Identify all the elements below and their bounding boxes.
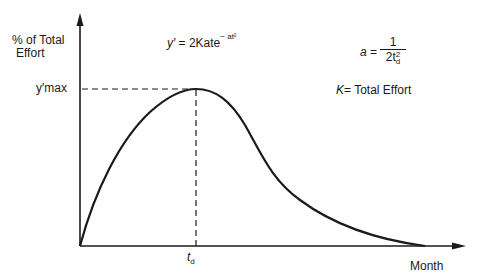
td-tick-label: td (187, 251, 195, 264)
x-axis-arrow-icon (452, 243, 466, 250)
rayleigh-curve-diagram (0, 0, 480, 279)
x-axis-label: Month (410, 260, 443, 273)
y-axis-arrow-icon (77, 13, 84, 26)
y-axis-label-line2: Effort (12, 47, 64, 60)
effort-curve (80, 89, 425, 246)
param-a-fraction: 1 2t2d (380, 36, 406, 65)
y-axis-label: % of Total Effort (12, 34, 64, 60)
rayleigh-equation: y′ = 2Kate− at² (167, 37, 237, 50)
ymax-tick-label: y′max (36, 82, 67, 95)
param-k-definition: K= Total Effort (336, 84, 411, 97)
